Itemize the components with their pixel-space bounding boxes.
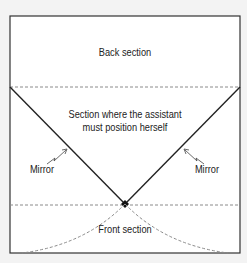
front-section-label: Front section [81,223,169,236]
back-section-label: Back section [50,46,200,59]
mirror-left-label: Mirror [24,163,59,176]
middle-section-label-line2: must position herself [46,121,204,134]
middle-section-label-line1: Section where the assistant [46,108,204,121]
mirror-right-label: Mirror [189,163,224,176]
